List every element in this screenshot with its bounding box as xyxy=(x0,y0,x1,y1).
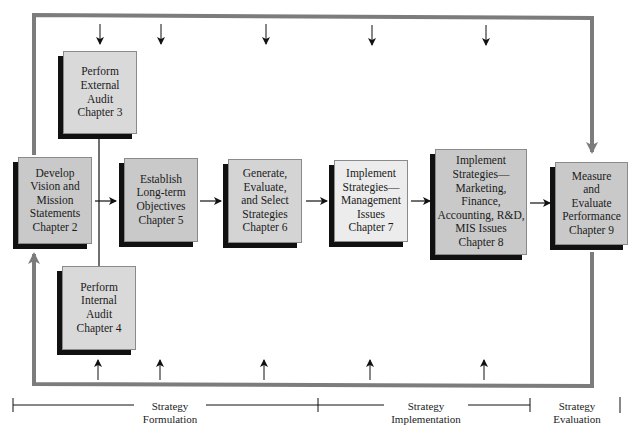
box-label: Perform External Audit Chapter 3 xyxy=(77,65,122,119)
box-long-term-objectives: Establish Long-term Objectives Chapter 5 xyxy=(124,158,198,242)
phase-timeline xyxy=(13,397,620,413)
phase-label-implementation: Strategy Implementation xyxy=(384,400,468,426)
strategic-management-diagram: Perform External Audit Chapter 3 Develop… xyxy=(0,0,642,436)
box-measure-evaluate: Measure and Evaluate Performance Chapter… xyxy=(555,162,628,245)
box-label: Establish Long-term Objectives Chapter 5 xyxy=(136,173,185,227)
box-label: Develop Vision and Mission Statements Ch… xyxy=(30,167,80,235)
box-label: Generate, Evaluate, and Select Strategie… xyxy=(241,167,289,235)
box-implement-functional: Implement Strategies— Marketing, Finance… xyxy=(435,149,527,255)
box-label: Implement Strategies— Management Issues … xyxy=(341,167,401,235)
box-label: Implement Strategies— Marketing, Finance… xyxy=(437,154,524,249)
box-label: Perform Internal Audit Chapter 4 xyxy=(76,281,121,335)
box-generate-strategies: Generate, Evaluate, and Select Strategie… xyxy=(228,159,302,243)
bottom-input-arrows xyxy=(98,360,484,380)
top-input-arrows xyxy=(100,24,486,45)
box-label: Measure and Evaluate Performance Chapter… xyxy=(562,170,621,238)
box-external-audit: Perform External Audit Chapter 3 xyxy=(63,51,137,134)
box-implement-management: Implement Strategies— Management Issues … xyxy=(334,160,408,242)
box-vision-mission: Develop Vision and Mission Statements Ch… xyxy=(18,157,92,244)
box-internal-audit: Perform Internal Audit Chapter 4 xyxy=(62,266,136,350)
phase-label-formulation: Strategy Formulation xyxy=(134,400,206,426)
phase-label-evaluation: Strategy Evaluation xyxy=(544,400,610,426)
